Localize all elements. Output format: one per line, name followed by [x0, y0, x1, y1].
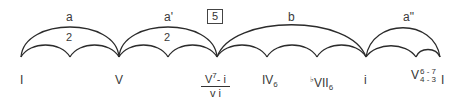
section-label-a-double-prime: a" [403, 11, 414, 23]
sub-arc [317, 45, 366, 57]
sub-arc [119, 45, 168, 57]
sub-arc [416, 50, 440, 58]
sub-arc [21, 45, 70, 57]
section-label-b: b [288, 11, 295, 23]
sub-arc [70, 45, 119, 57]
chord-I-end: I [441, 74, 444, 86]
section-label-a: a [66, 11, 73, 23]
sub-arc [267, 45, 317, 57]
arc-a-double-prime [366, 28, 440, 57]
chord-V-figured: V6 - 74 - 3 [411, 68, 436, 84]
sub-arc [168, 45, 217, 57]
sub-arc [366, 46, 416, 57]
arc-b [217, 25, 366, 57]
sub-arc [217, 45, 267, 57]
chord-i: i [364, 74, 367, 86]
section-count-a: 2 [66, 31, 72, 43]
section-count-a-prime: 2 [164, 31, 170, 43]
boxed-number: 5 [207, 9, 223, 24]
chord-IV6: IV6 [262, 74, 278, 91]
chord-V: V [115, 74, 123, 86]
section-label-a-prime: a' [164, 11, 173, 23]
chord-flat-VII6: ♭VII6 [310, 74, 333, 94]
chord-V7-i-over-vi: V7- i v i [201, 70, 230, 99]
chord-I-start: I [20, 74, 23, 86]
